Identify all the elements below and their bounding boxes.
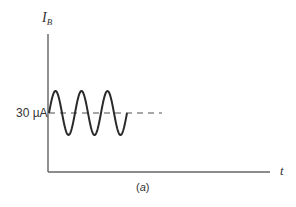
x-axis-label: t	[280, 164, 284, 177]
y-tick-label-30uA: 30 µA	[16, 107, 48, 119]
plot-area	[0, 0, 296, 207]
figure: IB 30 µA t (a)	[0, 0, 296, 207]
figure-caption: (a)	[136, 182, 149, 193]
y-axis-label: IB	[42, 11, 52, 27]
